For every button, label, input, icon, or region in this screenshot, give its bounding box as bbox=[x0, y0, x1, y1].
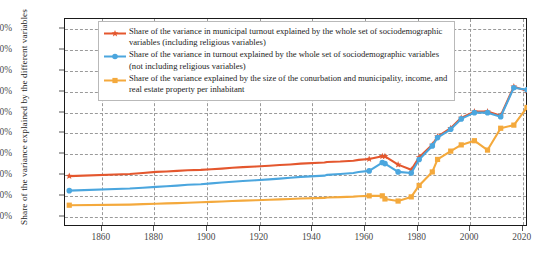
data-point-marker bbox=[66, 172, 73, 179]
data-point-marker bbox=[67, 203, 72, 208]
data-point-marker bbox=[408, 170, 414, 176]
data-point-marker bbox=[382, 196, 387, 201]
square-marker-icon bbox=[103, 73, 129, 85]
data-point-marker bbox=[472, 110, 478, 116]
x-tick-label: 1940 bbox=[286, 232, 336, 242]
data-point-marker bbox=[498, 114, 504, 120]
legend-item[interactable]: Share of the variance in turnout explain… bbox=[103, 49, 449, 71]
data-point-marker bbox=[382, 161, 388, 167]
x-tick-mark bbox=[417, 226, 418, 231]
data-point-marker bbox=[366, 155, 373, 162]
data-point-marker bbox=[430, 169, 435, 174]
y-tick-label: 100% bbox=[0, 23, 12, 33]
x-tick-mark bbox=[259, 226, 260, 231]
data-point-marker bbox=[498, 126, 503, 131]
legend-label: Share of the variance in municipal turno… bbox=[129, 26, 449, 48]
data-point-marker bbox=[524, 87, 527, 93]
x-tick-label: 1980 bbox=[392, 232, 442, 242]
x-tick-label: 1900 bbox=[181, 232, 231, 242]
x-tick-label: 1880 bbox=[128, 232, 178, 242]
y-tick-label: 30% bbox=[0, 169, 12, 179]
data-point-marker bbox=[511, 123, 516, 128]
data-point-marker bbox=[416, 157, 422, 163]
chart-legend: Share of the variance in municipal turno… bbox=[98, 21, 455, 101]
data-point-marker bbox=[417, 183, 422, 188]
x-tick-mark bbox=[311, 226, 312, 231]
y-tick-label: 70% bbox=[0, 86, 12, 96]
legend-label: Share of the variance explained by the s… bbox=[129, 73, 449, 95]
data-point-marker bbox=[524, 105, 527, 110]
legend-label: Share of the variance in turnout explain… bbox=[129, 49, 449, 71]
data-point-marker bbox=[485, 110, 491, 116]
data-point-marker bbox=[435, 135, 441, 141]
y-tick-label: 50% bbox=[0, 127, 12, 137]
x-tick-label: 1860 bbox=[76, 232, 126, 242]
y-tick-label: 40% bbox=[0, 148, 12, 158]
x-tick-label: 2020 bbox=[497, 232, 543, 242]
data-point-marker bbox=[395, 198, 400, 203]
data-point-marker bbox=[458, 116, 464, 122]
x-tick-mark bbox=[206, 226, 207, 231]
chart-figure: Share of the variance explained by the d… bbox=[0, 0, 543, 264]
y-tick-label: 10% bbox=[0, 211, 12, 221]
data-point-marker bbox=[448, 149, 453, 154]
legend-item[interactable]: Share of the variance explained by the s… bbox=[103, 73, 449, 95]
x-tick-mark bbox=[153, 226, 154, 231]
data-point-marker bbox=[459, 142, 464, 147]
data-point-marker bbox=[367, 193, 372, 198]
data-point-marker bbox=[511, 85, 517, 91]
data-point-marker bbox=[366, 168, 372, 174]
x-tick-mark bbox=[364, 226, 365, 231]
x-tick-label: 1920 bbox=[234, 232, 284, 242]
data-point-marker bbox=[448, 126, 454, 132]
data-point-marker bbox=[66, 188, 72, 194]
x-tick-mark bbox=[469, 226, 470, 231]
x-tick-label: 1960 bbox=[339, 232, 389, 242]
legend-item[interactable]: Share of the variance in municipal turno… bbox=[103, 26, 449, 48]
y-axis-title: Share of the variance explained by the d… bbox=[19, 7, 29, 227]
data-point-marker bbox=[409, 194, 414, 199]
data-point-marker bbox=[472, 138, 477, 143]
data-point-marker bbox=[435, 157, 440, 162]
x-tick-mark bbox=[101, 226, 102, 231]
circle-marker-icon bbox=[103, 49, 129, 61]
y-tick-label: 90% bbox=[0, 44, 12, 54]
star-marker-icon bbox=[103, 26, 129, 38]
x-tick-mark bbox=[522, 226, 523, 231]
y-tick-label: 20% bbox=[0, 190, 12, 200]
data-point-marker bbox=[429, 143, 435, 149]
data-point-marker bbox=[485, 147, 490, 152]
x-tick-label: 2000 bbox=[444, 232, 494, 242]
series-line bbox=[69, 88, 527, 191]
y-tick-label: 80% bbox=[0, 65, 12, 75]
y-tick-label: 60% bbox=[0, 107, 12, 117]
data-point-marker bbox=[395, 169, 401, 175]
